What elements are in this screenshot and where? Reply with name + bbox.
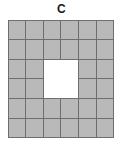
grid-tile-empty [60,78,79,99]
grid-tile-empty [43,59,62,80]
grid-tile-empty [43,78,62,99]
grid-tile [96,20,115,41]
grid-tile [96,59,115,80]
tile-grid [8,20,114,138]
grid-tile [60,118,79,139]
grid-tile [43,98,62,119]
grid-tile [8,78,27,99]
grid-tile [78,20,97,41]
figure-label: C [0,2,123,16]
grid-tile [25,78,44,99]
grid-tile [96,118,115,139]
grid-tile [8,98,27,119]
figure-container: C [0,0,123,146]
grid-tile [25,20,44,41]
grid-tile-empty [60,59,79,80]
grid-tile [96,78,115,99]
grid-tile [60,20,79,41]
grid-tile [8,118,27,139]
grid-tile [78,78,97,99]
grid-tile [60,98,79,119]
grid-tile [78,98,97,119]
grid-tile [60,39,79,60]
grid-tile [8,59,27,80]
grid-tile [78,59,97,80]
grid-tile [8,39,27,60]
grid-tile [96,98,115,119]
grid-tile [43,39,62,60]
grid-tile [78,39,97,60]
grid-tile [25,59,44,80]
grid-tile [8,20,27,41]
grid-tile [25,98,44,119]
grid-tile [96,39,115,60]
grid-tile [78,118,97,139]
grid-tile [25,39,44,60]
grid-tile [43,118,62,139]
tile-grid-container [8,20,114,138]
grid-tile [25,118,44,139]
grid-tile [43,20,62,41]
